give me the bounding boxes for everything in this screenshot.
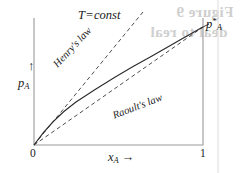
x-axis-arrow-icon: → [119, 150, 135, 164]
temperature-symbol: T [78, 8, 85, 22]
pure-component-pressure-label: p*A [206, 16, 222, 32]
y-axis-label: pA [18, 76, 29, 91]
axis-frame [34, 18, 203, 145]
pressure-subscript: A [217, 22, 222, 32]
y-axis-arrow-icon: ↑ [28, 58, 35, 74]
const-value: const [94, 8, 120, 22]
temperature-condition-label: T=const [78, 8, 120, 23]
x-tick-label-0: 0 [30, 147, 36, 159]
equals-sign: = [85, 8, 94, 22]
x-tick-label-1: 1 [200, 147, 206, 159]
y-axis-subscript: A [24, 81, 29, 91]
phase-diagram-figure: Figure 9 deal to real T=const ↑ pA xA→ 0… [0, 0, 252, 173]
x-axis-label: xA→ [108, 150, 134, 165]
raoult-law-line [34, 27, 203, 145]
x-axis-subscript: A [114, 155, 119, 165]
